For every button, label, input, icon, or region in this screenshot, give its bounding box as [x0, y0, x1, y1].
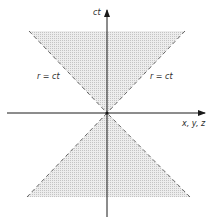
cone-label-right: r = ct — [150, 72, 173, 81]
past-light-cone — [27, 113, 190, 197]
horizontal-axis-label: x, y, z — [181, 119, 206, 128]
origin-point — [105, 111, 108, 114]
cone-label-left: r = ct — [37, 72, 60, 81]
light-cone-diagram: ct x, y, z r = ct r = ct — [0, 0, 215, 222]
vertical-axis-label: ct — [93, 8, 101, 17]
